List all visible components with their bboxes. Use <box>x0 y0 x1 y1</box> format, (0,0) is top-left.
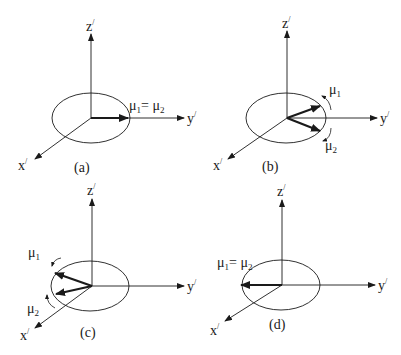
moment-label: μ1= μ2 <box>129 98 164 115</box>
z-axis-label: z/ <box>277 183 286 199</box>
panel-caption: (a) <box>74 160 90 176</box>
rotation-arrow-2 <box>47 295 55 308</box>
x-axis-label: x/ <box>20 327 30 343</box>
x-axis-label: x/ <box>213 157 223 173</box>
z-axis-label: z/ <box>282 15 291 31</box>
panel-b: z/ y/ x/ μ1 μ2 (b) <box>213 15 390 175</box>
moment-1-label: μ1 <box>329 82 341 99</box>
z-axis-label: z/ <box>87 182 96 198</box>
moment-label: μ1= μ2 <box>217 255 252 272</box>
magnetic-moment-diagram: z/ y/ x/ μ1= μ2 (a) z/ y/ x/ μ1 μ2 (b) z… <box>0 0 401 355</box>
panel-caption: (c) <box>80 325 96 341</box>
x-axis-label: x/ <box>18 157 28 173</box>
panel-d: z/ y/ x/ μ1= μ2 (d) <box>210 183 388 338</box>
x-axis <box>228 118 287 159</box>
panel-c: z/ y/ x/ μ1 μ2 (c) <box>20 182 197 343</box>
x-axis <box>225 285 282 321</box>
y-axis-label: y/ <box>378 277 388 293</box>
x-axis <box>35 118 91 159</box>
y-axis-label: y/ <box>187 110 197 126</box>
rotation-arrow-1 <box>322 96 331 110</box>
moment-vector-1 <box>55 273 92 286</box>
rotation-arrow-1 <box>52 258 61 266</box>
x-axis-label: x/ <box>210 322 220 338</box>
panel-a: z/ y/ x/ μ1= μ2 (a) <box>18 18 197 176</box>
moment-2-label: μ2 <box>325 138 337 155</box>
panel-caption: (d) <box>269 317 286 333</box>
y-axis-label: y/ <box>380 110 390 126</box>
moment-vector-2 <box>287 118 320 131</box>
moment-vector-1 <box>287 106 320 118</box>
moment-1-label: μ1 <box>28 245 40 262</box>
z-axis-label: z/ <box>86 18 95 34</box>
y-axis-label: y/ <box>187 278 197 294</box>
panel-caption: (b) <box>262 159 279 175</box>
moment-2-label: μ2 <box>27 301 39 318</box>
